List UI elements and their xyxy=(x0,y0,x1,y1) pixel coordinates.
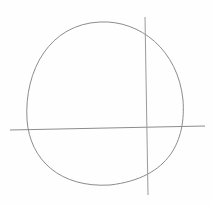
sketch-canvas xyxy=(0,0,212,205)
circle-outline xyxy=(27,22,184,185)
horizontal-guide-line xyxy=(10,126,205,130)
sketch-drawing xyxy=(0,0,212,205)
vertical-guide-line xyxy=(145,17,148,195)
